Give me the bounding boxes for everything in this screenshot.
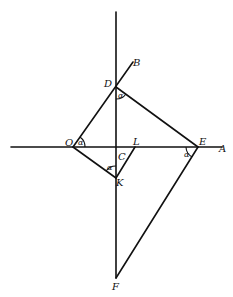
angle-label-E: α xyxy=(184,150,190,159)
point-label-E: E xyxy=(198,136,207,147)
line-DE xyxy=(116,87,198,147)
point-label-C: C xyxy=(118,151,126,162)
point-label-K: K xyxy=(115,177,124,188)
point-label-L: L xyxy=(132,136,140,147)
point-label-D: D xyxy=(103,78,112,89)
angle-label-O: α xyxy=(78,138,84,147)
angle-label-K: α xyxy=(107,163,113,172)
point-label-O: O xyxy=(65,137,73,148)
geometry-diagram: α α α α B D O L E A C K F xyxy=(0,0,233,297)
line-EF xyxy=(116,147,198,278)
point-label-F: F xyxy=(111,281,120,292)
point-label-A: A xyxy=(218,143,226,154)
line-OB xyxy=(73,62,133,147)
angle-label-D: α xyxy=(118,91,124,100)
point-label-B: B xyxy=(132,57,140,68)
